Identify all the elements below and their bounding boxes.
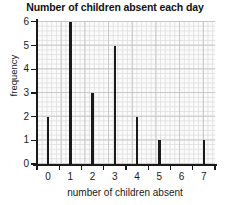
x-axis-tick-label: 2 [86, 172, 100, 182]
y-axis-tick-label: 2 [17, 112, 29, 122]
bar [158, 140, 161, 164]
x-axis-tick [125, 165, 126, 170]
y-axis-tick [31, 116, 36, 117]
x-axis-tick [59, 165, 60, 170]
bar [114, 46, 117, 165]
y-axis-tick [31, 21, 36, 22]
y-axis-tick-label: 5 [17, 41, 29, 51]
y-axis-tick [31, 140, 36, 141]
x-axis-tick-label: 1 [63, 172, 77, 182]
bar [91, 93, 94, 164]
x-axis-title: number of children absent [30, 187, 220, 198]
y-axis-tick [31, 45, 36, 46]
y-axis-title: frequency [8, 41, 19, 111]
bar [69, 22, 72, 164]
chart-title: Number of children absent each day [0, 1, 230, 13]
x-axis-tick-label: 7 [197, 172, 211, 182]
y-axis-tick [31, 69, 36, 70]
x-axis-tick-label: 6 [175, 172, 189, 182]
x-axis-tick-label: 4 [130, 172, 144, 182]
y-axis-tick-label: 0 [17, 159, 29, 169]
x-axis-tick [170, 165, 171, 170]
y-axis-line [36, 19, 38, 166]
chart-page: Number of children absent each day 01234… [0, 0, 230, 205]
x-axis-tick [192, 165, 193, 170]
y-axis-tick-label: 3 [17, 88, 29, 98]
x-axis-tick [36, 165, 37, 170]
x-axis-tick [214, 165, 215, 170]
bar [136, 117, 139, 164]
y-axis-tick [31, 163, 36, 164]
x-axis-tick [148, 165, 149, 170]
x-axis-tick [81, 165, 82, 170]
bar [47, 117, 50, 164]
x-axis-tick-label: 0 [41, 172, 55, 182]
y-axis-tick-label: 4 [17, 64, 29, 74]
y-axis-tick [31, 92, 36, 93]
x-axis-tick-label: 5 [152, 172, 166, 182]
y-axis-tick-label: 1 [17, 135, 29, 145]
x-axis-tick [103, 165, 104, 170]
y-axis-tick-label: 6 [17, 17, 29, 27]
bar [203, 140, 206, 164]
x-axis-tick-label: 3 [108, 172, 122, 182]
plot-grid-area [37, 21, 215, 164]
